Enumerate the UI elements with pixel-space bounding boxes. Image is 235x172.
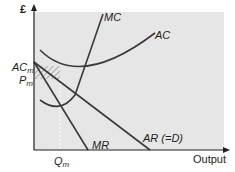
mr-label: MR — [92, 140, 109, 151]
ac-label: AC — [155, 30, 170, 41]
y-axis-label: £ — [20, 4, 26, 15]
ar-label: AR (=D) — [143, 133, 183, 144]
y-axis-arrow — [31, 4, 37, 11]
diagram-canvas — [0, 0, 235, 172]
mc-label: MC — [104, 12, 121, 23]
q-m-label: Qm — [54, 156, 69, 169]
p-m-label: Pm — [19, 75, 33, 88]
x-axis-label: Output — [193, 154, 226, 165]
plot-panel — [34, 12, 224, 150]
